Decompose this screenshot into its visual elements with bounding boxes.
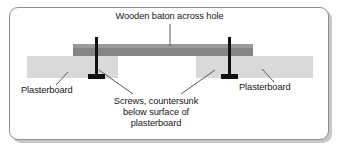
hole-gap bbox=[118, 56, 196, 78]
screw-right-shaft bbox=[228, 37, 231, 75]
title-label: Wooden baton across hole bbox=[0, 11, 339, 22]
left-plasterboard-label: Plasterboard bbox=[21, 85, 73, 96]
screws-caption-line-1: Screws, countersunk bbox=[95, 96, 217, 107]
screws-caption-line-3: plasterboard bbox=[95, 118, 217, 129]
plasterboard-right-panel bbox=[196, 56, 313, 78]
screw-right-head bbox=[221, 74, 238, 79]
screw-left-shaft bbox=[95, 37, 98, 75]
diagram-stage: Wooden baton across hole Plasterboard Pl… bbox=[0, 0, 339, 148]
diagram-figure: Wooden baton across hole Plasterboard Pl… bbox=[0, 0, 339, 148]
right-plasterboard-label: Plasterboard bbox=[239, 82, 291, 93]
screws-caption-line-2: below surface of bbox=[95, 107, 217, 118]
wooden-baton-highlight bbox=[73, 44, 253, 48]
screws-caption: Screws, countersunk below surface of pla… bbox=[95, 96, 217, 129]
screw-left-head bbox=[88, 74, 105, 79]
